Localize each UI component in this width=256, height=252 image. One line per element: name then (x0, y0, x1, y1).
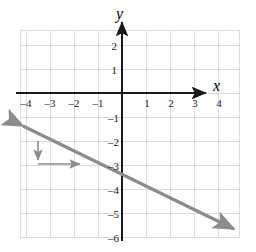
y-tick-label--4: –4 (108, 185, 119, 196)
x-tick-label--3: –3 (45, 98, 56, 109)
y-tick-label--3: –3 (108, 161, 119, 172)
x-tick-label--1: –1 (93, 98, 104, 109)
y-axis-label: y (116, 6, 123, 22)
x-tick-label-4: 4 (216, 98, 222, 109)
x-tick-label-3: 3 (192, 98, 198, 109)
y-tick-label--2: –2 (108, 137, 119, 148)
x-tick-label-1: 1 (144, 98, 150, 109)
y-tick-label-1: 1 (112, 65, 118, 76)
graph-canvas (0, 0, 256, 252)
x-tick-label--2: –2 (69, 98, 80, 109)
y-tick-label--5: –5 (108, 209, 119, 220)
x-axis-label: x (213, 78, 220, 94)
y-tick-label--6: –6 (108, 233, 119, 244)
y-tick-label-2: 2 (112, 41, 118, 52)
x-tick-label--4: –4 (21, 98, 32, 109)
grid-lines (20, 30, 239, 238)
x-tick-label-2: 2 (168, 98, 174, 109)
y-tick-label--1: –1 (108, 113, 119, 124)
coordinate-plane-figure: –4 –3 –2 –1 1 2 3 4 2 1 –1 –2 –3 –4 –5 –… (0, 0, 256, 252)
